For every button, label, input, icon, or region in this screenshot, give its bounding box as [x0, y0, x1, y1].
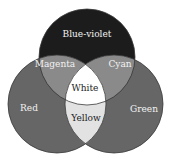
label-yellow: Yellow	[70, 113, 101, 123]
label-blue-violet: Blue-violet	[63, 29, 112, 39]
label-cyan: Cyan	[108, 59, 131, 69]
label-green: Green	[130, 104, 158, 114]
label-magenta: Magenta	[35, 59, 76, 69]
label-white: White	[72, 83, 99, 93]
venn-diagram: Blue-violet Magenta Cyan White Red Green…	[0, 0, 174, 160]
label-red: Red	[20, 103, 38, 113]
